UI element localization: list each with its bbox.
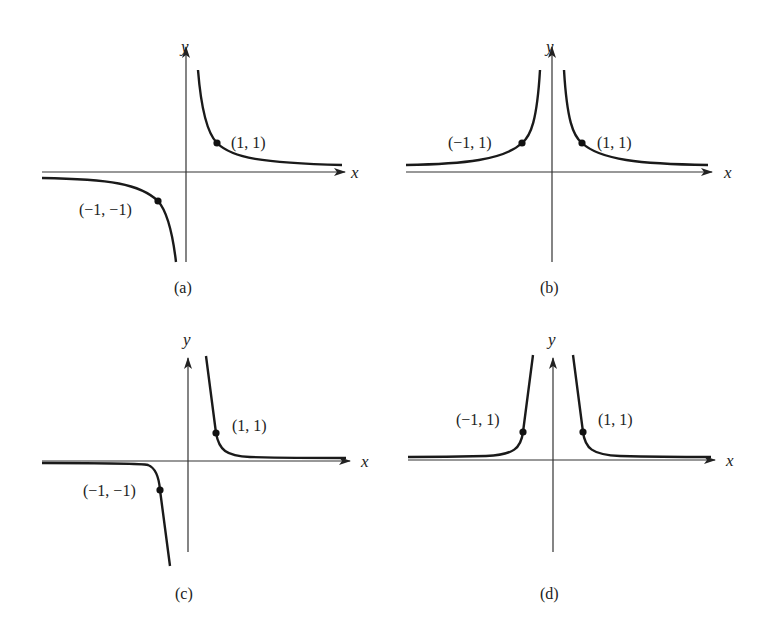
panel-a: x y (1, 1) (−1, −1) (a) [42, 37, 359, 297]
point-marker [156, 486, 163, 493]
y-axis-label: y [181, 330, 191, 349]
curve-right-branch [564, 70, 708, 165]
y-axis-label: y [546, 330, 556, 349]
point-marker [519, 428, 526, 435]
point-marker [154, 197, 161, 204]
panel-b: x y (−1, 1) (1, 1) (b) [406, 37, 732, 297]
panel-caption: (c) [175, 585, 193, 603]
y-axis-label: y [179, 37, 189, 56]
x-axis-label: x [350, 163, 359, 182]
point-label: (−1, 1) [456, 411, 500, 429]
curve-positive-branch [206, 356, 346, 458]
panel-caption: (a) [174, 279, 192, 297]
curve-negative-branch [42, 178, 176, 262]
point-marker [578, 139, 585, 146]
curve-positive-branch [198, 70, 342, 165]
point-marker [518, 139, 525, 146]
point-label: (1, 1) [232, 417, 267, 435]
point-marker [213, 139, 220, 146]
panel-d: x y (−1, 1) (1, 1) (d) [408, 330, 734, 603]
x-axis-label: x [723, 163, 732, 182]
point-label: (1, 1) [598, 411, 633, 429]
point-label: (−1, −1) [83, 482, 136, 500]
panel-caption: (d) [540, 585, 559, 603]
point-marker [579, 428, 586, 435]
y-axis-label: y [544, 37, 554, 56]
curve-negative-branch [42, 463, 170, 566]
x-axis-label: x [725, 451, 734, 470]
point-label: (1, 1) [231, 134, 266, 152]
point-label: (−1, −1) [79, 201, 132, 219]
curve-left-branch [408, 355, 533, 457]
figure-canvas: x y (1, 1) (−1, −1) (a) x y (−1, 1) (1, … [0, 0, 778, 632]
panel-c: x y (1, 1) (−1, −1) (c) [42, 330, 369, 603]
x-axis-label: x [360, 452, 369, 471]
point-label: (−1, 1) [448, 134, 492, 152]
point-marker [212, 429, 219, 436]
curve-right-branch [573, 355, 711, 457]
panel-caption: (b) [540, 279, 559, 297]
point-label: (1, 1) [597, 134, 632, 152]
